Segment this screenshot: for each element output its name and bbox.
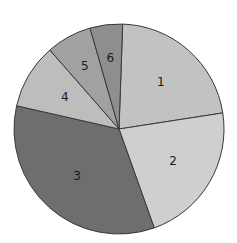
pie-label-6: 6 (106, 51, 114, 65)
pie-label-2: 2 (169, 154, 177, 168)
pie-label-3: 3 (73, 169, 81, 183)
pie-slice-1 (119, 24, 223, 129)
pie-chart: 123456 (0, 0, 237, 243)
pie-label-4: 4 (61, 90, 69, 104)
pie-label-5: 5 (81, 59, 89, 73)
pie-slices (14, 24, 224, 234)
pie-label-1: 1 (157, 75, 165, 89)
